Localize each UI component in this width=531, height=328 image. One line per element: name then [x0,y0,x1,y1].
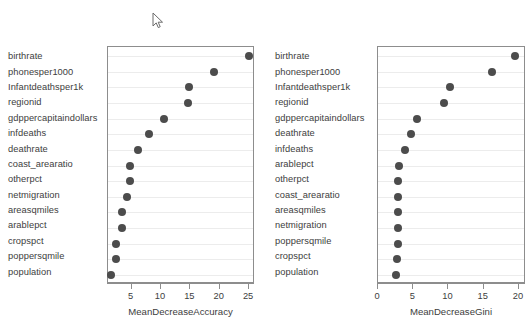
plot-frame-left [107,46,254,283]
variable-label: areasqmiles [275,205,326,216]
variable-label: netmigration [8,190,60,201]
x-axis-tick-label: 10 [442,291,452,302]
panel-mean-decrease-accuracy: birthratephonesper1000Infantdeathsper1kr… [0,0,266,328]
data-point [446,83,454,91]
variable-label: otherpct [275,174,309,185]
x-axis-tick [219,283,220,289]
x-axis-tick [131,283,132,289]
x-axis-line-left [107,283,254,284]
variable-label: infdeaths [8,128,46,139]
x-axis-right: 05101520 [377,283,525,295]
data-point [395,162,403,170]
variable-label: otherpct [8,174,42,185]
x-axis-tick-label: 20 [214,291,224,302]
variable-label: areasqmiles [8,205,59,216]
x-axis-tick [412,283,413,289]
data-point [126,177,134,185]
x-axis-tick-label: 15 [478,291,488,302]
variable-label: phonesper1000 [8,67,73,78]
variable-label: regionid [8,97,41,108]
data-point [112,240,120,248]
data-point [407,130,415,138]
x-axis-tick [377,283,378,289]
data-point [118,208,126,216]
variable-label: arablepct [8,220,47,231]
data-point [118,224,126,232]
x-axis-tick-label: 0 [374,291,379,302]
x-axis-tick-label: 5 [128,291,133,302]
data-point [145,130,153,138]
x-axis-tick [483,283,484,289]
data-point [393,255,401,263]
variable-label: netmigration [275,220,327,231]
variable-label: deathrate [8,144,48,155]
variable-label: coast_arearatio [275,190,340,201]
data-point [210,68,218,76]
variable-label-column-left: birthratephonesper1000Infantdeathsper1kr… [8,46,105,283]
x-axis-line-right [377,283,525,284]
data-point [413,115,421,123]
variable-label: population [275,267,318,278]
x-axis-tick [248,283,249,289]
variable-label: poppersqmile [8,251,64,262]
plot-canvas: birthratephonesper1000Infantdeathsper1kr… [0,0,531,328]
x-axis-tick-label: 25 [243,291,253,302]
variable-label: regionid [275,97,308,108]
x-axis-tick [189,283,190,289]
x-axis-tick-label: 5 [410,291,415,302]
variable-label: Infantdeathsper1k [275,82,350,93]
data-points-right [378,47,524,282]
data-point [107,271,115,279]
data-point [394,224,402,232]
x-axis-tick-label: 15 [184,291,194,302]
data-point [488,68,496,76]
data-point [401,146,409,154]
x-axis-tick-label: 20 [513,291,523,302]
variable-label: arablepct [275,159,314,170]
variable-label: birthrate [8,51,43,62]
x-axis-tick [447,283,448,289]
data-point [184,99,192,107]
variable-label: gdppercapitaindollars [275,113,364,124]
x-axis-title-right: MeanDecreaseGini [377,306,525,318]
variable-label-column-right: birthratephonesper1000Infantdeathsper1kr… [275,46,375,283]
data-point [392,271,400,279]
data-point [394,240,402,248]
data-points-left [108,47,253,282]
x-axis-tick-label: 10 [155,291,165,302]
data-point [126,162,134,170]
variable-label: cropspct [275,251,311,262]
data-point [245,52,253,60]
data-point [112,255,120,263]
x-axis-tick [518,283,519,289]
data-point [511,52,519,60]
data-point [134,146,142,154]
plot-frame-right [377,46,525,283]
data-point [185,83,193,91]
data-point [394,208,402,216]
data-point [394,177,402,185]
data-point [160,115,168,123]
variable-label: coast_arearatio [8,159,73,170]
variable-label: gdppercapitaindollars [8,113,97,124]
variable-label: Infantdeathsper1k [8,82,83,93]
data-point [440,99,448,107]
variable-label: infdeaths [275,144,313,155]
x-axis-title-left: MeanDecreaseAccuracy [107,306,254,318]
variable-label: deathrate [275,128,315,139]
x-axis-left: 510152025 [107,283,254,295]
variable-label: cropspct [8,236,44,247]
variable-label: phonesper1000 [275,67,340,78]
variable-label: birthrate [275,51,310,62]
data-point [394,193,402,201]
data-point [123,193,131,201]
x-axis-tick [160,283,161,289]
variable-label: poppersqmile [275,236,331,247]
panel-mean-decrease-gini: birthratephonesper1000Infantdeathsper1kr… [266,0,531,328]
variable-label: population [8,267,51,278]
